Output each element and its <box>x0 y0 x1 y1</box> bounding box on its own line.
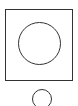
small-circle-icon <box>32 89 52 106</box>
large-circle-icon <box>18 22 61 65</box>
